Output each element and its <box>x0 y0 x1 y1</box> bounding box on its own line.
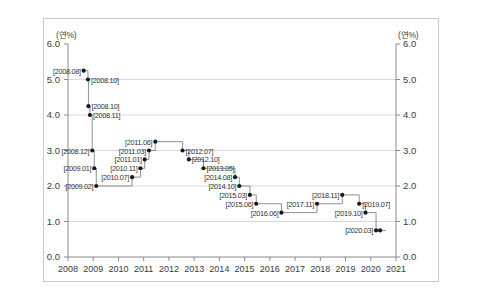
data-point <box>248 193 252 197</box>
data-point <box>82 69 86 73</box>
data-point-label: [2012.07] <box>186 146 214 155</box>
data-point-label: [2019.10] <box>335 208 363 217</box>
y-axis-tick-left: 1.0 <box>34 216 60 227</box>
data-point-label: [2020.03] <box>345 226 373 235</box>
data-point <box>279 211 283 215</box>
y-axis-tick-left: 6.0 <box>34 38 60 49</box>
data-point-label: [2019.07] <box>362 199 390 208</box>
data-point-label: [2008.10] <box>91 75 119 84</box>
y-axis-tick-left: 5.0 <box>34 74 60 85</box>
data-point <box>92 166 96 170</box>
data-point-label: [2011.06] <box>125 137 152 146</box>
data-point <box>378 228 382 232</box>
data-point <box>187 157 191 161</box>
data-point <box>130 175 134 179</box>
y-axis-tick-left: 4.0 <box>34 109 60 120</box>
data-point-label: [2017.11] <box>287 199 314 208</box>
data-point <box>86 104 90 108</box>
data-point-label: [2008.10] <box>91 102 119 111</box>
y-axis-tick-left: 3.0 <box>34 145 60 156</box>
data-point-label: [2008.12] <box>61 146 89 155</box>
data-point-label: [2009.01] <box>64 164 92 173</box>
data-point <box>237 184 241 188</box>
data-point-label: [2008.11] <box>93 111 120 120</box>
data-point-label: [2013.05] <box>206 164 234 173</box>
data-point-label: [2010.11] <box>110 164 137 173</box>
y-axis-tick-right: 5.0 <box>403 74 429 85</box>
data-point <box>88 113 92 117</box>
data-point <box>138 166 142 170</box>
data-point-label: [2015.03] <box>219 190 247 199</box>
y-axis-tick-left: 0.0 <box>34 251 60 262</box>
data-point <box>340 193 344 197</box>
data-point <box>94 184 98 188</box>
data-point <box>374 228 378 232</box>
data-point <box>180 148 184 152</box>
y-axis-tick-right: 3.0 <box>403 145 429 156</box>
data-point-label: [2008.08] <box>53 66 81 75</box>
y-axis-tick-left: 2.0 <box>34 180 60 191</box>
data-point-label: [2011.03] <box>119 146 146 155</box>
y-axis-tick-right: 1.0 <box>403 216 429 227</box>
data-point-label: [2010.07] <box>101 173 129 182</box>
x-axis-tick: 2021 <box>381 264 411 274</box>
data-point-label: [2009.02] <box>66 182 94 191</box>
data-point <box>147 148 151 152</box>
data-point <box>201 166 205 170</box>
data-point-label: [2015.06] <box>225 199 253 208</box>
data-point <box>90 148 94 152</box>
y-axis-tick-right: 2.0 <box>403 180 429 191</box>
data-point <box>357 202 361 206</box>
data-point-label: [2011.01] <box>114 155 141 164</box>
data-point-label: [2016.06] <box>251 208 279 217</box>
y-axis-tick-right: 6.0 <box>403 38 429 49</box>
data-point <box>143 157 147 161</box>
data-point <box>233 175 237 179</box>
data-point-label: [2014.10] <box>209 182 237 191</box>
data-point <box>254 202 258 206</box>
data-point <box>363 211 367 215</box>
data-point <box>86 77 90 81</box>
data-point <box>315 202 319 206</box>
data-point-label: [2018.11] <box>312 190 339 199</box>
y-axis-tick-right: 0.0 <box>403 251 429 262</box>
data-point-label: [2014.08] <box>204 173 232 182</box>
chart-canvas: (연%) (연%) 0.00.01.01.02.02.03.03.04.04.0… <box>0 0 482 302</box>
data-point <box>153 140 157 144</box>
data-point-label: [2012.10] <box>192 155 220 164</box>
y-axis-tick-right: 4.0 <box>403 109 429 120</box>
